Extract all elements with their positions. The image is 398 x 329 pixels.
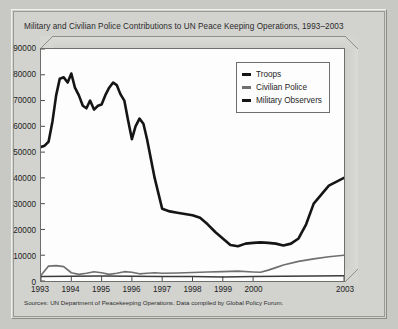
x-tick-label: 1993 <box>31 285 49 294</box>
y-tick-label: 50000 <box>13 148 36 157</box>
y-tick-label: 60000 <box>13 122 36 131</box>
legend-item-military-observers: Military Observers <box>242 94 322 107</box>
x-tick-label: 1998 <box>183 285 201 294</box>
x-tick-label: 2000 <box>244 285 262 294</box>
legend-swatch-icon <box>242 86 251 89</box>
x-tick-label: 2003 <box>336 285 354 294</box>
x-tick-label: 1994 <box>61 285 79 294</box>
y-tick-label: 40000 <box>13 174 36 183</box>
legend-swatch-icon <box>242 73 251 76</box>
legend-label: Troops <box>256 70 281 79</box>
plot-top-panel <box>40 36 358 48</box>
x-tick-label: 1996 <box>122 285 140 294</box>
plot-right-panel <box>345 36 358 282</box>
series-line <box>41 255 344 275</box>
chart-legend: Troops Civilian Police Military Observer… <box>236 62 330 113</box>
series-line <box>41 276 344 277</box>
y-tick-label: 30000 <box>13 200 36 209</box>
bevel-top-right <box>345 36 358 49</box>
source-note: Sources: UN Department of Peacekeeping O… <box>24 299 283 306</box>
y-tick-label: 90000 <box>13 44 36 53</box>
legend-swatch-icon <box>242 99 251 102</box>
x-tick-label: 1995 <box>92 285 110 294</box>
legend-label: Military Observers <box>256 96 322 105</box>
y-tick-label: 20000 <box>13 226 36 235</box>
x-tick-label: 1999 <box>214 285 232 294</box>
x-tick-label: 1997 <box>153 285 171 294</box>
legend-item-troops: Troops <box>242 68 322 81</box>
chart-figure: Military and Civilian Police Contributio… <box>0 0 398 329</box>
legend-label: Civilian Police <box>256 83 307 92</box>
y-tick-label: 10000 <box>13 252 36 261</box>
y-tick-label: 70000 <box>13 96 36 105</box>
y-axis-labels: 0100002000030000400005000060000700008000… <box>0 36 40 296</box>
y-tick-label: 80000 <box>13 70 36 79</box>
chart-title: Military and Civilian Police Contributio… <box>24 22 364 31</box>
bevel-bottom-right <box>345 269 358 282</box>
x-axis-labels: 199319941995199619971998199920002003 <box>40 285 360 299</box>
legend-item-civilian-police: Civilian Police <box>242 81 322 94</box>
